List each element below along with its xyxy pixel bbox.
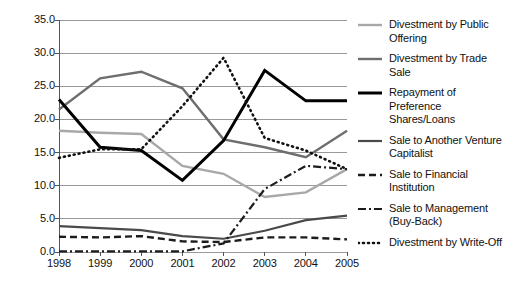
y-tick-label: 20.0 bbox=[3, 113, 55, 124]
y-tick-label: 0.0 bbox=[3, 246, 55, 257]
x-tick-label: 2004 bbox=[286, 257, 326, 269]
x-tick-label: 2005 bbox=[327, 257, 367, 269]
x-tick-label: 2000 bbox=[121, 257, 161, 269]
y-axis: 0.05.010.015.020.025.030.035.0 bbox=[0, 20, 55, 252]
legend-label: Divestment by Trade Sale bbox=[389, 52, 504, 79]
legend-entry[interactable]: Repayment of Preference Shares/Loans bbox=[358, 86, 504, 127]
y-tick-label: 25.0 bbox=[3, 80, 55, 91]
series-line-2 bbox=[59, 70, 347, 180]
legend-label: Repayment of Preference Shares/Loans bbox=[389, 86, 504, 127]
plot-area bbox=[59, 20, 347, 252]
series-line-0 bbox=[59, 131, 347, 197]
legend-label: Sale to Financial Institution bbox=[389, 168, 504, 195]
legend-label: Sale to Management (Buy-Back) bbox=[389, 202, 488, 229]
legend-swatch-icon bbox=[358, 86, 382, 99]
y-tick-label: 15.0 bbox=[3, 147, 55, 158]
legend: Divestment by Public OfferingDivestment … bbox=[358, 18, 504, 257]
y-tick-label: 30.0 bbox=[3, 47, 55, 58]
legend-swatch-icon bbox=[358, 52, 382, 65]
legend-swatch-icon bbox=[358, 202, 382, 215]
legend-swatch-icon bbox=[358, 236, 382, 249]
x-tick-label: 1999 bbox=[80, 257, 120, 269]
legend-swatch-icon bbox=[358, 168, 382, 181]
legend-entry[interactable]: Sale to Another Venture Capitalist bbox=[358, 134, 504, 161]
line-chart: 0.05.010.015.020.025.030.035.0 199819992… bbox=[0, 0, 506, 283]
legend-entry[interactable]: Divestment by Write-Off bbox=[358, 236, 504, 250]
series-line-1 bbox=[59, 72, 347, 158]
x-axis: 19981999200020012002200320042005 bbox=[59, 257, 347, 273]
legend-entry[interactable]: Divestment by Trade Sale bbox=[358, 52, 504, 79]
plot-svg bbox=[54, 20, 348, 258]
legend-entry[interactable]: Divestment by Public Offering bbox=[358, 18, 504, 45]
x-tick-label: 1998 bbox=[39, 257, 79, 269]
x-tick-label: 2003 bbox=[245, 257, 285, 269]
y-tick-label: 5.0 bbox=[3, 213, 55, 224]
legend-swatch-icon bbox=[358, 134, 382, 147]
x-tick-label: 2001 bbox=[162, 257, 202, 269]
legend-label: Divestment by Write-Off bbox=[389, 236, 502, 250]
y-tick-label: 35.0 bbox=[3, 14, 55, 25]
legend-entry[interactable]: Sale to Financial Institution bbox=[358, 168, 504, 195]
legend-swatch-icon bbox=[358, 18, 382, 31]
y-tick-label: 10.0 bbox=[3, 180, 55, 191]
legend-label: Divestment by Public Offering bbox=[389, 18, 489, 45]
legend-entry[interactable]: Sale to Management (Buy-Back) bbox=[358, 202, 504, 229]
x-tick-label: 2002 bbox=[204, 257, 244, 269]
legend-label: Sale to Another Venture Capitalist bbox=[389, 134, 502, 161]
